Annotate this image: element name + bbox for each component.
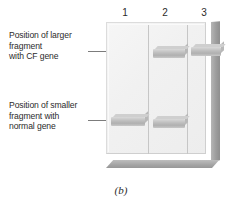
- gel-electrophoresis-figure: Position of larger fragment with CF gene…: [0, 0, 242, 205]
- band-lane2-smaller-fragment: [153, 119, 185, 128]
- lane-number-3: 3: [197, 7, 211, 18]
- gel-slab: [106, 22, 220, 168]
- figure-caption: (b): [0, 184, 242, 196]
- band-lane1-smaller-fragment: [111, 117, 145, 126]
- band-lane2-larger-fragment: [153, 49, 185, 58]
- label-smaller-fragment: Position of smaller fragment with normal…: [9, 100, 95, 132]
- label-larger-fragment: Position of larger fragment with CF gene: [9, 30, 95, 62]
- band-lane3-larger-fragment: [191, 47, 221, 56]
- lane-number-2: 2: [158, 7, 172, 18]
- gel-front-face: [106, 22, 206, 154]
- lane-divider-1: [148, 24, 149, 154]
- gel-bottom-face: [106, 160, 219, 168]
- gel-side-face: [211, 21, 220, 161]
- lane-number-1: 1: [118, 7, 132, 18]
